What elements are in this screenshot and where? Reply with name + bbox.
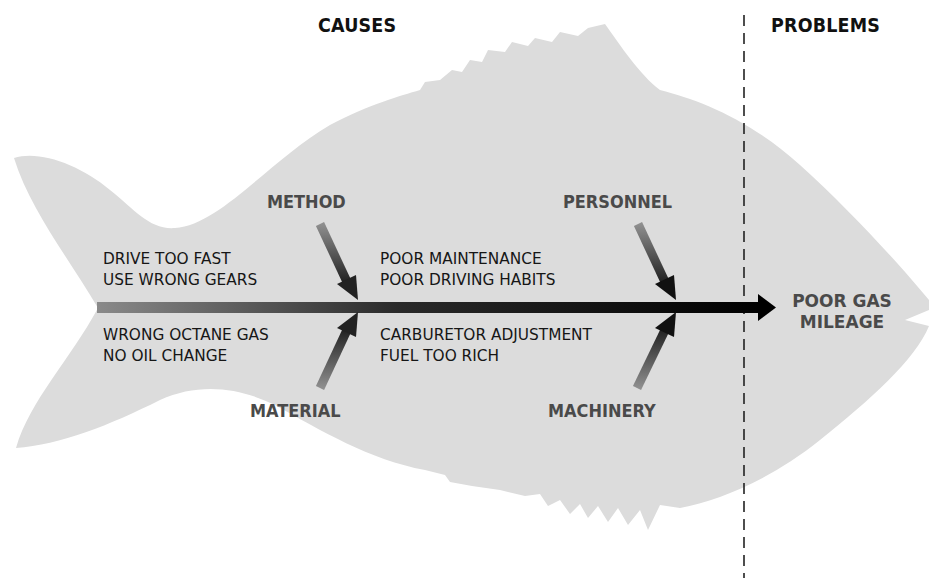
cause-item: DRIVE TOO FAST	[103, 248, 257, 269]
problem-statement: POOR GAS MILEAGE	[784, 291, 900, 333]
material-causes: WRONG OCTANE GAS NO OIL CHANGE	[103, 324, 269, 366]
cause-item: CARBURETOR ADJUSTMENT	[380, 324, 592, 345]
cause-item: POOR MAINTENANCE	[380, 248, 555, 269]
personnel-causes: POOR MAINTENANCE POOR DRIVING HABITS	[380, 248, 555, 290]
causes-header: CAUSES	[318, 16, 396, 35]
spine-shaft	[97, 302, 762, 313]
category-machinery: MACHINERY	[548, 403, 656, 420]
cause-item: FUEL TOO RICH	[380, 345, 592, 366]
problem-line: POOR GAS	[784, 291, 900, 312]
category-method: METHOD	[267, 194, 346, 211]
machinery-causes: CARBURETOR ADJUSTMENT FUEL TOO RICH	[380, 324, 592, 366]
category-material: MATERIAL	[250, 403, 341, 420]
category-personnel: PERSONNEL	[563, 194, 672, 211]
cause-item: USE WRONG GEARS	[103, 269, 257, 290]
problems-header: PROBLEMS	[771, 16, 880, 35]
cause-item: NO OIL CHANGE	[103, 345, 269, 366]
cause-item: POOR DRIVING HABITS	[380, 269, 555, 290]
problem-line: MILEAGE	[784, 312, 900, 333]
cause-item: WRONG OCTANE GAS	[103, 324, 269, 345]
method-causes: DRIVE TOO FAST USE WRONG GEARS	[103, 248, 257, 290]
